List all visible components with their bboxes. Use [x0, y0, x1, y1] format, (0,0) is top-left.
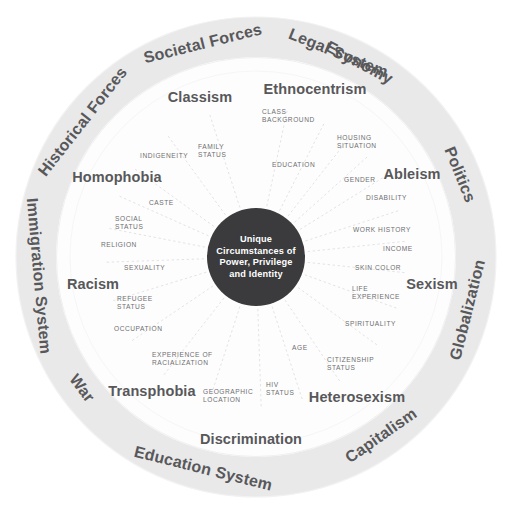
attribute-label: CASTE: [149, 199, 174, 206]
core-title-line: Unique: [240, 234, 272, 244]
attribute-label: AGE: [292, 344, 308, 351]
ring-label: Heterosexism: [309, 389, 405, 405]
attribute-label: HOUSINGSITUATION: [337, 134, 377, 149]
attribute-label: SPIRITUALITY: [345, 320, 396, 327]
ring-label: Transphobia: [108, 383, 196, 399]
core-title-line: and Identity: [229, 269, 283, 279]
attribute-label: WORK HISTORY: [353, 226, 411, 233]
attribute-label: SKIN COLOR: [355, 264, 401, 271]
attribute-label: FAMILYSTATUS: [198, 143, 226, 158]
attribute-label: OCCUPATION: [114, 325, 162, 332]
attribute-label: RELIGION: [101, 241, 137, 248]
attribute-label: EDUCATION: [272, 161, 315, 168]
ring-label: Classism: [168, 89, 232, 105]
attribute-label: INDIGENEITY: [140, 152, 188, 159]
core-title-line: Circumstances of: [216, 246, 296, 256]
ring-label: Discrimination: [200, 431, 302, 447]
attribute-label: DISABILITY: [366, 194, 407, 201]
attribute-label: SEXUALITY: [124, 264, 165, 271]
ring-label: Racism: [67, 276, 119, 292]
diagram-canvas: EconomyPoliticsGlobalizationCapitalismEd…: [0, 0, 513, 519]
attribute-label: GENDER: [344, 176, 376, 183]
ring-label: Homophobia: [72, 169, 162, 185]
power-privilege-identity-wheel: EconomyPoliticsGlobalizationCapitalismEd…: [0, 0, 513, 519]
attribute-label: SOCIALSTATUS: [115, 215, 143, 230]
attribute-label: EXPERIENCE OFRACIALIZATION: [152, 351, 213, 366]
ring-label: Sexism: [406, 276, 457, 292]
core-title-line: Power, Privilege: [220, 257, 293, 267]
attribute-label: INCOME: [383, 245, 413, 252]
ring-label: Ethnocentrism: [264, 81, 367, 97]
ring-label: Ableism: [383, 166, 440, 182]
